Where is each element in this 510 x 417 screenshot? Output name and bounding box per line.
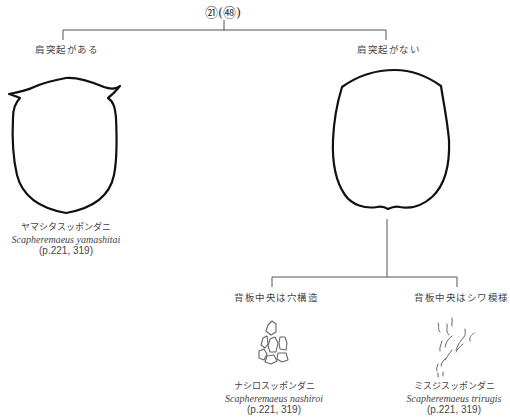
species-scientific-name: Scapheremaeus trirugis: [394, 393, 510, 405]
couplet-number: ㉑(㊽): [205, 2, 241, 21]
condition-rugose: 背板中央はシワ模様: [414, 290, 509, 304]
species-caption-trirugis: ミスジスッポンダニ Scapheremaeus trirugis (p.221,…: [394, 381, 510, 416]
species-caption-yamashitai: ヤマシタスッポンダニ Scapheremaeus yamashitai (p.2…: [0, 222, 132, 257]
condition-shoulder-present: 肩突起がある: [35, 42, 98, 56]
body-outline-with-shoulders-icon: [9, 78, 120, 213]
condition-shoulder-absent: 肩突起がない: [357, 42, 420, 56]
top-connector: [63, 20, 386, 40]
condition-foveolate: 背板中央は穴構造: [234, 290, 318, 304]
species-caption-nashiroi: ナシロスッポンダニ Scapheremaeus nashiroi (p.221,…: [214, 381, 334, 416]
body-outline-without-shoulders-icon: [333, 70, 449, 209]
species-scientific-name: Scapheremaeus nashiroi: [214, 393, 334, 405]
species-scientific-name: Scapheremaeus yamashitai: [0, 234, 132, 246]
species-japanese-name: ナシロスッポンダニ: [214, 381, 334, 393]
species-page-reference: (p.221, 319): [394, 404, 510, 416]
rugose-wrinkle-pattern-icon: [437, 318, 474, 377]
species-page-reference: (p.221, 319): [214, 404, 334, 416]
species-japanese-name: ミスジスッポンダニ: [394, 381, 510, 393]
key-diagram-graphics: [0, 0, 510, 417]
species-japanese-name: ヤマシタスッポンダニ: [0, 222, 132, 234]
foveolate-pattern-icon: [259, 321, 288, 364]
lower-connector: [272, 219, 457, 287]
species-page-reference: (p.221, 319): [0, 245, 132, 257]
